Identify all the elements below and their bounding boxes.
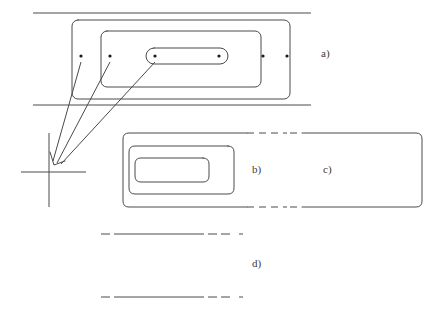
panel-label-b: b) [252, 163, 261, 175]
panel-label-c: c) [323, 163, 332, 175]
panel-a-dot-2 [108, 54, 111, 57]
panel-a-dot-6 [285, 54, 288, 57]
panel-a-dot-5 [261, 54, 264, 57]
panel-a-nested-rects [72, 20, 290, 99]
panel-c-outline [302, 133, 422, 207]
panel-d-rails [101, 234, 306, 297]
leader-line-2 [57, 62, 110, 163]
panel-a-dot-1 [79, 54, 82, 57]
panel-c-open-rect [290, 133, 422, 207]
leader-lines [53, 62, 155, 164]
panel-b-nested-channels [123, 133, 247, 207]
panel-a-middle-rect [101, 31, 261, 87]
panel-a-dot-4 [217, 54, 220, 57]
panel-b-middle-channel [129, 146, 234, 194]
panel-label-d: d) [252, 257, 261, 269]
panel-a-inner-rect [146, 48, 228, 64]
figure-canvas [0, 0, 443, 311]
panel-a-guide-lines [33, 13, 311, 105]
figure-root: a) b) c) d) [0, 0, 443, 311]
leader-line-3 [61, 62, 155, 164]
panel-label-a: a) [321, 47, 330, 59]
panel-a-dots [79, 54, 288, 57]
panel-a-dot-3 [153, 54, 156, 57]
panel-b-inner-channel [135, 158, 209, 182]
origin-axis-cross [21, 133, 86, 207]
panel-b-outer-channel [123, 133, 247, 207]
